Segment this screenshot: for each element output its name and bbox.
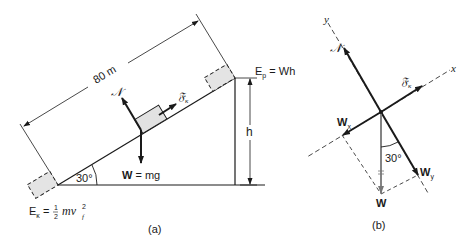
wx-label: Wx [337,116,351,130]
normal-label-a: 𝒩 [111,85,126,99]
origin-point [379,110,383,114]
wy-force-arrow [381,112,418,175]
weight-label-a: W = mg [122,169,160,181]
wy-projection [381,175,418,194]
y-axis-label: y [323,13,329,25]
svg-text:2: 2 [54,213,58,220]
svg-text:Eκ =: Eκ = [29,205,49,219]
friction-label-a: 𝔉κ [178,90,189,105]
figure-b-fbd: y x 𝒩 𝔉κ Wx Wy W 30° (b) [307,13,456,231]
friction-force-arrow-b [381,86,422,112]
length-dim-left [24,87,88,126]
block-top-ghost [204,64,235,91]
potential-energy-label: Ep = Wh [255,65,295,80]
w-label-b: W [376,197,387,209]
normal-force-arrow [122,98,141,130]
wy-label: Wy [420,166,434,181]
caption-b: (b) [372,219,385,231]
length-label: 80 m [91,63,118,86]
friction-label-b: 𝔉κ [401,75,412,90]
x-axis-label: x [450,62,456,74]
angle-label-b: 30° [385,152,402,164]
normal-label-b: 𝒩 [330,41,345,55]
block-bottom-ghost [27,171,58,198]
angle-label-a: 30° [76,172,93,184]
svg-text:mv: mv [62,204,77,218]
diagram-canvas: 80 m h 30° 𝒩 𝔉κ W = mg Ep = Wh [0,0,472,246]
svg-text:1: 1 [54,204,58,211]
angle-arc-b [381,142,398,147]
wx-projection [342,135,381,194]
angle-arc-a [92,165,97,185]
caption-a: (a) [148,223,161,235]
kinetic-energy-label: Eκ = 1 2 mv f 2 [29,203,86,221]
figure-a-incline: 80 m h 30° 𝒩 𝔉κ W = mg Ep = Wh [20,14,295,235]
svg-text:f: f [82,213,85,221]
height-label: h [246,125,253,139]
normal-force-arrow-b [344,48,381,112]
length-dim-right [128,21,198,63]
svg-text:2: 2 [82,203,86,210]
